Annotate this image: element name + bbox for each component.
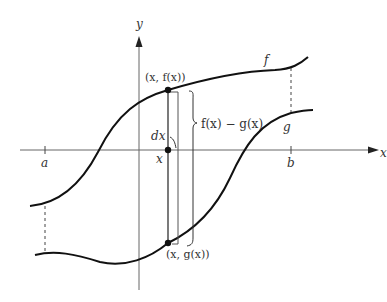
point-bottom bbox=[165, 240, 171, 246]
height-label: f(x) − g(x) bbox=[201, 117, 263, 131]
curve-label-g: g bbox=[283, 120, 291, 134]
curve-label-f: f bbox=[263, 53, 271, 67]
tick-label-b: b bbox=[287, 156, 295, 170]
point-axis bbox=[165, 147, 171, 153]
dx-label: dx bbox=[151, 129, 166, 143]
x-axis-label: x bbox=[380, 146, 387, 160]
y-axis-arrow-icon bbox=[136, 36, 143, 47]
dx-pointer bbox=[170, 137, 176, 148]
area-between-curves-diagram: x y a b f g dx f(x) − g(x) (x, f(x)) x bbox=[0, 0, 387, 302]
point-bottom-label: (x, g(x)) bbox=[166, 248, 210, 261]
tick-label-a: a bbox=[41, 156, 48, 170]
y-axis-label: y bbox=[135, 17, 143, 31]
curve-g bbox=[35, 110, 313, 264]
point-top bbox=[165, 87, 171, 93]
y-axis: y bbox=[135, 17, 143, 290]
representative-rectangle bbox=[168, 90, 178, 244]
point-axis-label: x bbox=[156, 152, 163, 166]
height-brace bbox=[187, 91, 197, 246]
point-top-label: (x, f(x)) bbox=[145, 71, 186, 84]
x-axis-arrow-icon bbox=[368, 147, 379, 154]
x-axis: x bbox=[20, 146, 387, 160]
